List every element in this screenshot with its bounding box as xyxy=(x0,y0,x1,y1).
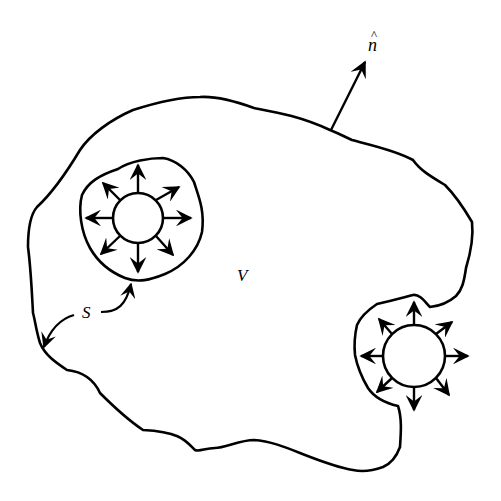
volume-label: V xyxy=(237,266,247,286)
outer-boundary xyxy=(28,97,473,471)
surface-pointer-inner xyxy=(101,284,131,312)
cavity-right-circle xyxy=(383,325,445,387)
surface-pointer-outer xyxy=(44,315,74,347)
normal-arrow xyxy=(331,62,365,130)
cavity-left-circle xyxy=(113,193,163,243)
surface-label: S xyxy=(82,303,91,323)
diagram-canvas xyxy=(0,0,501,501)
normal-label: n xyxy=(368,35,377,56)
